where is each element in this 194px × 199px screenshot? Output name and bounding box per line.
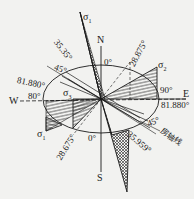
west-label: W [9,96,18,106]
west-80-angle: 80° [28,92,41,101]
top-zero-angle: 0° [104,58,112,67]
sigma2-label: σ2 [158,60,166,72]
east-label: E [183,89,189,99]
east-90-angle: 90° [160,86,173,95]
right-81-880-angle: 81.880° [161,101,189,110]
sigma3-left-wedge [73,99,101,128]
sigma3-label: σ3 [63,88,71,100]
bottom-zero-angle: 0° [88,134,96,143]
stress-rose-diagram: N S E W σ1 σ2 σ3 σ1 0° 0° 90° 80° 81.880… [0,0,194,199]
sigma2-right-wedge [101,67,157,99]
north-label: N [97,35,104,45]
south-label: S [97,173,103,183]
sigma1-bottom-label: σ1 [37,129,45,141]
sigma1-top-label: σ1 [83,12,91,24]
